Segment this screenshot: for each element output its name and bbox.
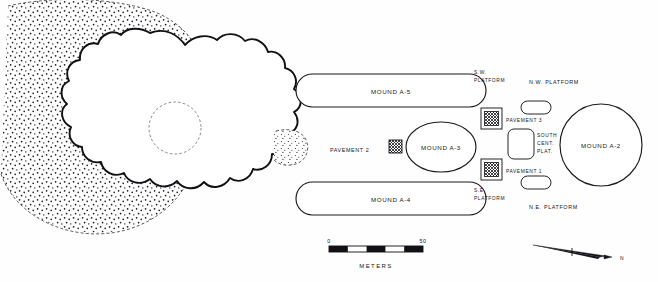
scale-bar-units-label: METERS <box>359 263 392 269</box>
pavement-3-square <box>485 112 499 126</box>
ne-platform-shape <box>521 176 551 189</box>
mound-a5-label: MOUND A-5 <box>371 88 411 95</box>
sw-platform-label-line2: PLATFORM <box>474 78 505 83</box>
pavement-2: PAVEMENT 2 <box>330 140 402 153</box>
scale-bar-start-label: 0 <box>327 238 331 244</box>
mound-a2-label: MOUND A-2 <box>581 142 621 149</box>
site-plan-figure: MOUND A-5 MOUND A-4 PAVEMENT 2 MOUND A-3… <box>0 0 658 282</box>
mound-a4: MOUND A-4 <box>296 182 486 215</box>
se-platform-label-line2: PLATFORM <box>474 196 505 201</box>
pavement-1-label: PAVEMENT 1 <box>506 169 542 174</box>
south-central-platform: SOUTH CENT. PLAT. <box>508 129 557 159</box>
ne-platform: N.E. PLATFORM <box>521 176 578 210</box>
nw-platform-shape <box>521 101 551 114</box>
south-central-platform-label-line2: CENT. <box>537 141 554 146</box>
mound-a4-label: MOUND A-4 <box>371 196 411 203</box>
mound-a5: MOUND A-5 <box>296 74 486 107</box>
nw-platform-label: N.W. PLATFORM <box>529 79 579 85</box>
pavement-2-label: PAVEMENT 2 <box>330 147 369 153</box>
scale-bar-end-label: 50 <box>419 238 426 244</box>
pavement-3-label: PAVEMENT 3 <box>506 118 542 123</box>
pavement-1-square <box>485 163 499 177</box>
nw-platform: N.W. PLATFORM <box>521 79 579 114</box>
sw-platform-label-line1: S.W. <box>474 70 487 75</box>
main-mound-group <box>1 0 301 234</box>
mound-a2: MOUND A-2 <box>560 104 642 186</box>
north-arrow-label: N <box>620 256 624 261</box>
pavement-2-square <box>389 140 402 153</box>
pavement-2-lobe <box>274 130 308 166</box>
ne-platform-label: N.E. PLATFORM <box>529 204 578 210</box>
south-central-platform-label-line3: PLAT. <box>537 149 553 154</box>
se-platform-label-line1: S.E. <box>474 188 486 193</box>
mound-a3: MOUND A-3 <box>406 122 476 172</box>
mound-a3-label: MOUND A-3 <box>421 144 461 151</box>
south-central-platform-label-line1: SOUTH <box>537 133 557 138</box>
north-arrow: N <box>533 245 624 261</box>
scale-bar: 0 50 METERS <box>327 238 426 269</box>
